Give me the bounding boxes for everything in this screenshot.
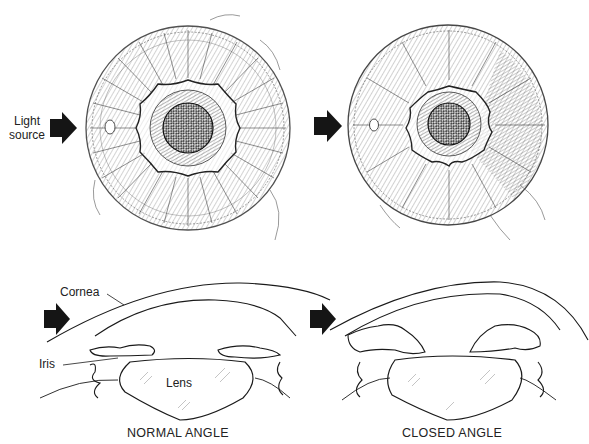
light-arrow-normal-icon xyxy=(50,112,77,144)
normal-angle-caption: NORMAL ANGLE xyxy=(127,426,229,440)
light-reflection-normal xyxy=(105,120,115,134)
pupil-normal xyxy=(163,103,213,153)
light-reflection-closed xyxy=(370,119,379,131)
light-arrow-closed-section-icon xyxy=(310,303,336,335)
light-source-label-line1: Light xyxy=(9,114,45,128)
lens-label: Lens xyxy=(166,376,192,390)
closed-iris-drawing xyxy=(348,25,548,240)
normal-iris-drawing xyxy=(86,15,290,240)
closed-angle-section xyxy=(330,282,588,420)
pupil-closed xyxy=(428,103,470,145)
lens-closed xyxy=(388,356,522,420)
light-arrow-normal-section-icon xyxy=(44,303,70,335)
light-source-label: Light source xyxy=(9,114,45,142)
normal-angle-section xyxy=(40,283,330,420)
closed-angle-caption: CLOSED ANGLE xyxy=(402,426,502,440)
iris-label: Iris xyxy=(39,357,55,371)
cornea-label: Cornea xyxy=(60,285,99,299)
light-source-label-line2: source xyxy=(9,128,45,142)
light-arrow-closed-icon xyxy=(314,110,342,142)
eye-angle-diagram xyxy=(0,0,589,444)
